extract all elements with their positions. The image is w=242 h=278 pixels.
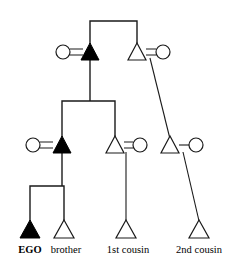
- person-cousin-parent-male-triangle-icon[interactable]: [161, 136, 179, 153]
- union-marker-g2-parents-equals-icon: [40, 142, 53, 148]
- person-brother-triangle-icon[interactable]: [54, 220, 74, 238]
- sibling-bracket-generation-3: [30, 186, 64, 221]
- kinship-diagram-canvas: EGO brother 1st cousin 2nd cousin: [0, 0, 242, 278]
- person-grandmother-circle-icon[interactable]: [56, 45, 70, 59]
- person-grandaunt-circle-icon[interactable]: [156, 45, 170, 59]
- label-brother: brother: [51, 244, 82, 255]
- union-marker-g1-right-equals-icon: [146, 49, 156, 55]
- person-grandfather-triangle-icon[interactable]: [81, 43, 99, 60]
- union-marker-g1-left-equals-icon: [70, 49, 83, 55]
- person-ego-triangle-icon[interactable]: [20, 220, 40, 238]
- person-second-cousin-triangle-icon[interactable]: [189, 220, 209, 238]
- label-second-cousin: 2nd cousin: [176, 244, 223, 255]
- person-uncle-triangle-icon[interactable]: [106, 136, 124, 153]
- person-granduncle-triangle-icon[interactable]: [128, 43, 146, 60]
- generation-3-row: [20, 220, 209, 238]
- person-mother-circle-icon[interactable]: [26, 138, 40, 152]
- generation-1-row: [56, 43, 170, 60]
- connector-layer: [30, 21, 199, 221]
- person-cousin-parent-female-circle-icon[interactable]: [189, 138, 203, 152]
- label-ego: EGO: [18, 244, 41, 255]
- person-father-triangle-icon[interactable]: [53, 136, 71, 153]
- person-aunt-circle-icon[interactable]: [133, 138, 147, 152]
- generation-2-row: [26, 136, 203, 153]
- descent-line-second-cousin: [183, 152, 199, 221]
- label-layer: EGO brother 1st cousin 2nd cousin: [18, 244, 222, 255]
- descent-line-cousin-parent: [150, 58, 170, 139]
- union-marker-g2-uncle-aunt-equals-icon: [124, 142, 133, 148]
- person-first-cousin-triangle-icon[interactable]: [116, 220, 136, 238]
- sibling-bracket-generation-1: [90, 21, 137, 44]
- label-first-cousin: 1st cousin: [107, 244, 150, 255]
- kinship-diagram: EGO brother 1st cousin 2nd cousin: [0, 0, 242, 278]
- sibling-bracket-generation-2: [62, 101, 115, 137]
